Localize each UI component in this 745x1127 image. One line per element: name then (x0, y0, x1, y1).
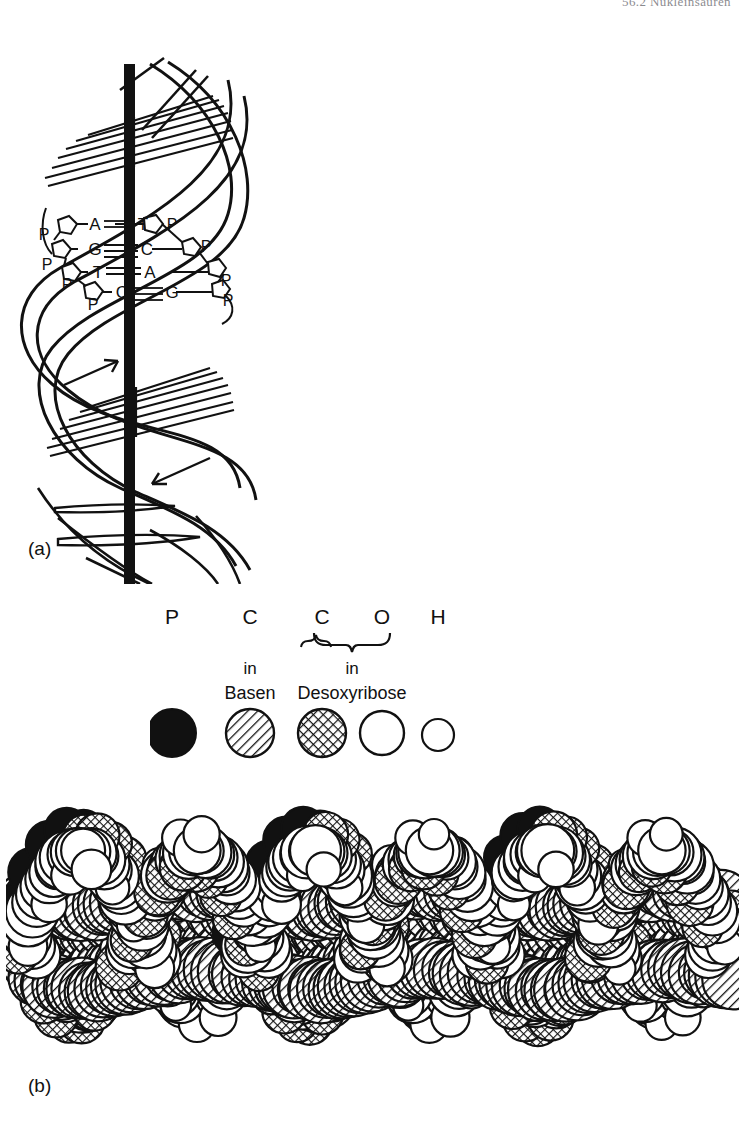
legend-symbol-3: O (374, 605, 390, 628)
base-letter-right-4: G (165, 283, 178, 302)
legend-swatch-carbon-desoxyribose (298, 709, 346, 757)
legend-swatch-carbon-bases (226, 709, 274, 757)
legend-symbol-1: C (242, 605, 257, 628)
legend: P C C O H in in Basen Desoxyribose (150, 600, 570, 765)
svg-text:P: P (221, 272, 232, 289)
strand-direction-arrow-down (152, 458, 210, 484)
figure-page: 56.2 Nukleinsäuren (0, 0, 745, 1127)
legend-symbol-0: P (165, 605, 179, 628)
base-pair-rungs-upper (45, 96, 233, 186)
legend-symbol-2: C (314, 605, 329, 628)
svg-text:P: P (201, 238, 212, 255)
svg-text:P: P (42, 256, 53, 273)
strand-direction-arrow-up (64, 360, 118, 385)
svg-text:P: P (167, 216, 178, 233)
base-letter-left-2: G (88, 240, 101, 259)
panel-a-label: (a) (28, 538, 51, 560)
legend-swatch-oxygen (360, 711, 404, 755)
legend-swatch-hydrogen (422, 719, 454, 751)
legend-brace-label: Desoxyribose (297, 683, 406, 703)
base-letter-left-3: T (93, 263, 103, 282)
panel-b-space-filling-model (6, 770, 739, 1075)
legend-sub1-1: in (243, 659, 256, 678)
svg-text:P: P (62, 276, 73, 293)
panel-a-schematic-helix: A T G C T A C G (0, 18, 300, 584)
legend-sub2-1: Basen (224, 683, 275, 703)
base-letter-right-1: T (138, 215, 148, 234)
base-letter-left-4: C (116, 283, 128, 302)
base-letter-left-1: A (89, 215, 101, 234)
helix-ribbon-front (39, 62, 250, 570)
base-letter-right-2: C (141, 240, 153, 259)
running-header: 56.2 Nukleinsäuren (622, 0, 731, 10)
legend-swatch-phosphorus (150, 709, 196, 757)
svg-text:P: P (88, 296, 99, 313)
legend-brace-caption: in (345, 659, 358, 678)
svg-text:P: P (39, 226, 50, 243)
panel-b-label: (b) (28, 1075, 51, 1097)
base-letter-right-3: A (144, 263, 156, 282)
svg-text:P: P (223, 292, 234, 309)
legend-brace-path (314, 633, 390, 652)
helix-axis (124, 64, 135, 584)
legend-symbol-4: H (430, 605, 445, 628)
